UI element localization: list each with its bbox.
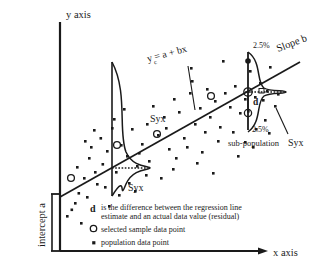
population-point xyxy=(102,163,105,166)
population-point xyxy=(201,151,204,154)
regression-scatter-figure: y axis x axis intercept a xyxy=(0,0,329,268)
population-point xyxy=(113,118,116,121)
regression-equation-group: y = a + bx c xyxy=(146,43,195,110)
legend-residual-line2: estimate and an actual data value (resid… xyxy=(101,212,239,221)
population-point xyxy=(206,88,209,91)
population-point xyxy=(232,131,235,134)
intercept-label: intercept a xyxy=(36,203,47,247)
population-point xyxy=(118,194,121,197)
population-point xyxy=(244,98,247,101)
sub-population-label: sub-population xyxy=(228,138,280,148)
population-point xyxy=(106,150,109,153)
legend-residual-symbol: d xyxy=(90,203,96,214)
population-point xyxy=(222,60,225,63)
population-point xyxy=(217,140,220,143)
population-point xyxy=(100,137,103,140)
upper-bound-point xyxy=(245,58,251,64)
regression-diagram-page: y axis x axis intercept a xyxy=(0,0,329,268)
population-point xyxy=(175,157,178,160)
population-point xyxy=(83,177,86,180)
sample-point xyxy=(208,93,215,100)
population-point xyxy=(264,119,267,122)
population-point xyxy=(115,171,118,174)
population-point xyxy=(78,192,81,195)
population-point xyxy=(152,105,155,108)
population-point xyxy=(84,140,87,143)
population-point xyxy=(229,106,232,109)
population-point xyxy=(88,157,91,160)
population-point xyxy=(96,183,99,186)
population-point xyxy=(76,166,79,169)
legend-sample-point-label: selected sample data point xyxy=(101,225,186,234)
population-point xyxy=(141,143,144,146)
population-point xyxy=(204,131,207,134)
slope-b-label: Slope b xyxy=(275,32,309,54)
population-point xyxy=(224,92,227,95)
population-point xyxy=(80,222,83,225)
population-point xyxy=(199,107,202,110)
population-point xyxy=(74,202,77,205)
legend-sample-point-icon xyxy=(90,225,96,231)
population-point xyxy=(94,171,97,174)
population-point xyxy=(165,127,168,130)
population-point xyxy=(190,67,193,70)
x-axis-arrow-icon xyxy=(258,248,268,255)
population-point xyxy=(104,186,107,189)
legend-population-point-icon xyxy=(92,241,95,244)
population-point xyxy=(209,116,212,119)
population-point xyxy=(66,215,69,218)
equation-leader-line xyxy=(188,66,195,110)
population-point xyxy=(145,174,148,177)
population-point xyxy=(249,70,252,73)
population-point xyxy=(178,111,181,114)
population-point xyxy=(71,209,74,212)
population-point xyxy=(194,123,197,126)
population-point xyxy=(146,123,149,126)
population-point xyxy=(172,168,175,171)
legend-residual-line1: is the difference between the regression… xyxy=(101,203,242,212)
y-axis-label: y axis xyxy=(66,9,91,20)
lower-percent-label: 2.5% xyxy=(252,125,269,134)
population-point xyxy=(186,146,189,149)
syx-middle-label: Syx xyxy=(150,113,166,124)
population-point xyxy=(219,126,222,129)
population-point xyxy=(239,112,242,115)
population-point xyxy=(234,85,237,88)
population-point xyxy=(189,92,192,95)
population-point xyxy=(93,129,96,132)
sample-point xyxy=(68,175,75,182)
population-point xyxy=(214,100,217,103)
population-point xyxy=(160,177,163,180)
syx-right-leader-line xyxy=(276,108,288,134)
upper-percent-label: 2.5% xyxy=(253,41,270,50)
population-point xyxy=(168,148,171,151)
syx-left-label: Syx xyxy=(128,182,144,193)
sample-point xyxy=(114,142,121,149)
syx-right-label: Syx xyxy=(288,137,304,148)
residual-d-label: d xyxy=(253,97,259,107)
population-point xyxy=(90,146,93,149)
population-point xyxy=(136,165,139,168)
population-point xyxy=(173,98,176,101)
population-point xyxy=(237,155,240,158)
population-point xyxy=(262,99,265,102)
population-point xyxy=(123,108,126,111)
population-point xyxy=(131,128,134,131)
population-point xyxy=(148,160,151,163)
population-point xyxy=(269,66,272,69)
population-point xyxy=(86,196,89,199)
population-point xyxy=(212,172,215,175)
legend-group: d is the difference between the regressi… xyxy=(90,203,242,247)
regression-equation-label: y = a + bx xyxy=(146,43,188,64)
population-point xyxy=(183,137,186,140)
population-point xyxy=(274,105,277,108)
population-point xyxy=(196,162,199,165)
x-axis-label: x axis xyxy=(273,247,298,258)
legend-population-point-label: population data point xyxy=(101,238,170,247)
population-point xyxy=(191,80,194,83)
